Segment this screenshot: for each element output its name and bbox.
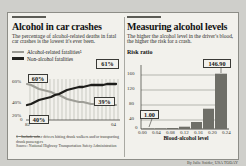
bar-012	[179, 127, 190, 129]
source-text: Source: National Highway Transportation …	[16, 144, 126, 149]
callout-peak: 146.90	[203, 59, 231, 68]
infographic-card: Alcohol in car crashes The percentage of…	[7, 12, 239, 160]
callout-nonalcohol-end: 61%	[96, 59, 119, 69]
line-chart: 60% 40% 20% 0 82 04 60% 61% 39% 40%	[12, 73, 124, 131]
y-tick-60: 60%	[12, 79, 21, 84]
bar-004	[155, 129, 166, 130]
y-tick-40: 40%	[12, 100, 21, 105]
right-panel-title: Measuring alcohol levels	[127, 21, 237, 32]
y-tick-0: 0	[20, 117, 23, 122]
footnote-block: 1 - Include sober drivers hitting drunk …	[16, 135, 126, 149]
panel-alcohol-in-car-crashes: Alcohol in car crashes The percentage of…	[12, 13, 124, 159]
callout-alcohol-start: 60%	[28, 74, 48, 83]
panel-measuring-alcohol-levels: Measuring alcohol levels The higher the …	[127, 13, 237, 159]
bar-chart: 160 120 80 40 0 0.00 0.04 0.08 0.12 0.16…	[127, 59, 237, 137]
y-tick-40: 40	[129, 116, 134, 121]
y-tick-160: 160	[127, 71, 135, 76]
bar-008	[167, 128, 178, 129]
legend-footnote-marker: 1	[80, 50, 82, 54]
x-tick-04: 04	[111, 122, 116, 127]
left-panel-title: Alcohol in car crashes	[12, 21, 124, 32]
bar-024	[215, 74, 227, 129]
y-tick-120: 120	[127, 86, 135, 91]
legend-label: Non-alcohol fatalities	[27, 56, 73, 62]
title-rule-right	[127, 16, 161, 18]
bar-chart-svg	[127, 59, 237, 137]
legend-swatch-icon	[12, 57, 24, 60]
infographic-root: Alcohol in car crashes The percentage of…	[0, 0, 246, 166]
legend-swatch-icon	[12, 51, 24, 54]
byline: By Julie Snider, USA TODAY	[187, 160, 238, 165]
callout-baseline: 1.00	[140, 110, 159, 119]
y-tick-80: 80	[129, 101, 134, 106]
footnote-text: 1 - Include sober drivers hitting drunk …	[16, 135, 126, 144]
legend-item-alcohol-related: Alcohol-related fatalities1	[12, 48, 124, 55]
x-axis-title: Blood-alcohol level	[131, 135, 241, 141]
bar-016	[191, 122, 202, 129]
bar-020	[203, 109, 214, 129]
left-panel-subtitle: The percentage of alcohol-related deaths…	[12, 34, 124, 46]
right-panel-subtitle: The higher the alcohol level in the driv…	[127, 34, 237, 46]
callout-alcohol-end: 39%	[94, 97, 115, 106]
risk-ratio-label: Risk ratio	[127, 49, 237, 55]
callout-nonalcohol-start: 40%	[29, 115, 49, 124]
legend-label: Alcohol-related fatalities	[27, 49, 80, 55]
title-rule-left	[12, 16, 46, 18]
bars	[143, 74, 227, 129]
